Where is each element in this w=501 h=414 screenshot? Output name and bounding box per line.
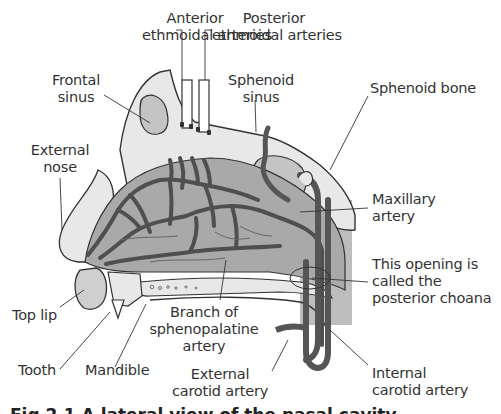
label-tooth: Tooth bbox=[18, 362, 56, 379]
label-top-lip: Top lip bbox=[12, 307, 57, 324]
nasal-cavity-diagram: Anterior ethmoidal arteries Posterior et… bbox=[0, 0, 501, 414]
label-sphenoid-sinus: Sphenoid sinus bbox=[226, 72, 296, 106]
label-mandible: Mandible bbox=[85, 362, 149, 379]
label-frontal-sinus: Frontal sinus bbox=[48, 72, 104, 106]
label-posterior-choana: This opening is called the posterior cho… bbox=[372, 256, 491, 307]
label-sphenoid-bone: Sphenoid bone bbox=[370, 80, 476, 97]
label-external-nose: External nose bbox=[30, 142, 90, 176]
external-carotid-branch bbox=[276, 327, 306, 330]
label-maxillary-artery: Maxillary artery bbox=[372, 191, 436, 225]
tooth-shape bbox=[112, 300, 124, 318]
figure-caption: Fig 2.1 A lateral view of the nasal cavi… bbox=[10, 404, 500, 414]
label-external-carotid-artery: External carotid artery bbox=[170, 366, 270, 400]
label-branch-of-sphenopalatine-artery: Branch of sphenopalatine artery bbox=[148, 304, 260, 355]
label-internal-carotid-artery: Internal carotid artery bbox=[372, 365, 468, 399]
top-lip-shape bbox=[75, 268, 106, 309]
label-posterior-ethmoidal-arteries: Posterior ethmoidal arteries bbox=[212, 10, 336, 44]
